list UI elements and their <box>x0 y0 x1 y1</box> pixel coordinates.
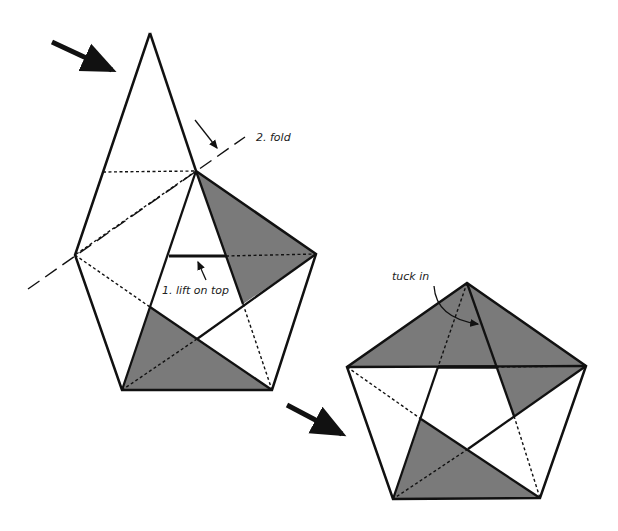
dashed-line <box>103 171 196 172</box>
lift-arrow-icon <box>198 262 206 280</box>
dashed-line <box>75 255 150 307</box>
step-2-figure: tuck in <box>287 270 586 499</box>
step-arrow-icon <box>52 42 112 70</box>
step-1-figure: 2. fold 1. lift on top <box>28 33 316 390</box>
fold-label: 2. fold <box>256 131 292 144</box>
shaded-triangle-bottom <box>122 307 272 390</box>
lift-label: 1. lift on top <box>162 284 229 297</box>
origami-diagram: 2. fold 1. lift on top tuck in <box>0 0 618 531</box>
step-arrow-icon <box>287 405 342 434</box>
tuck-label: tuck in <box>392 270 429 283</box>
dashed-line <box>347 367 421 419</box>
shaded-region-top <box>347 283 586 367</box>
fold-arrow-icon <box>195 120 217 148</box>
outline <box>75 33 316 390</box>
